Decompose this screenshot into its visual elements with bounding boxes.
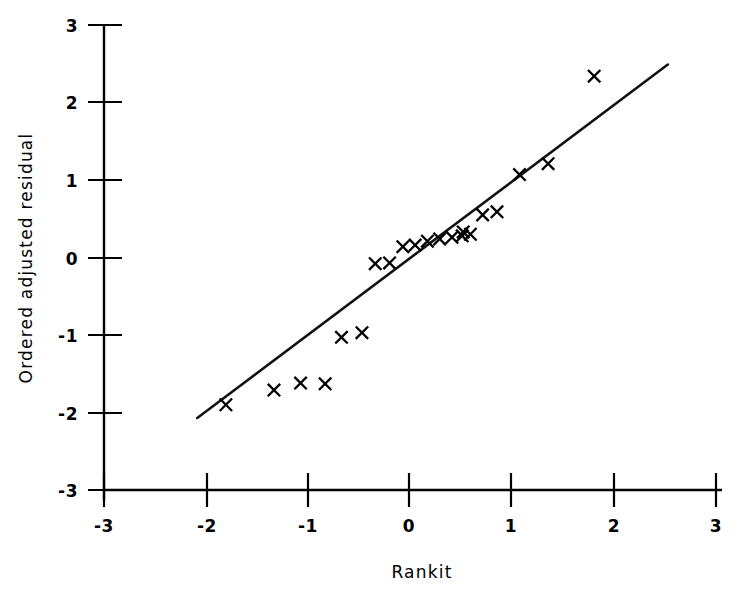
x-tick-label-neg3: -3 xyxy=(94,516,114,536)
y-axis-tick-labels: 3 2 1 0 -1 -2 -3 xyxy=(58,16,78,501)
x-tick-label-0: 0 xyxy=(403,516,415,536)
data-point-marker xyxy=(491,206,503,218)
y-axis-title: Ordered adjusted residual xyxy=(16,133,36,384)
x-axis-tick-labels: -3 -2 -1 0 1 2 3 xyxy=(94,516,722,536)
data-point-marker xyxy=(397,240,409,252)
y-tick-label-3: 3 xyxy=(66,16,78,36)
y-tick-label-2: 2 xyxy=(66,93,78,113)
reference-fit-line xyxy=(197,65,668,418)
y-tick-label-1: 1 xyxy=(66,171,78,191)
data-point-marker xyxy=(335,331,347,343)
normal-probability-plot: 3 2 1 0 -1 -2 -3 -3 -2 -1 0 1 2 3 xyxy=(0,0,736,591)
data-point-marker xyxy=(542,158,554,170)
data-point-marker xyxy=(268,384,280,396)
data-point-marker xyxy=(409,239,421,251)
x-tick-label-3: 3 xyxy=(710,516,722,536)
y-tick-label-neg3: -3 xyxy=(58,481,78,501)
y-tick-label-neg1: -1 xyxy=(58,326,78,346)
x-tick-label-neg1: -1 xyxy=(298,516,318,536)
x-tick-label-neg2: -2 xyxy=(197,516,217,536)
data-point-marker xyxy=(294,377,306,389)
data-point-marker xyxy=(476,209,488,221)
x-tick-label-1: 1 xyxy=(505,516,517,536)
y-tick-label-0: 0 xyxy=(66,249,78,269)
data-point-marker xyxy=(319,378,331,390)
data-point-marker xyxy=(220,399,232,411)
data-point-marker xyxy=(383,257,395,269)
data-point-marker xyxy=(513,168,525,180)
y-tick-label-neg2: -2 xyxy=(58,404,78,424)
plot-canvas: 3 2 1 0 -1 -2 -3 -3 -2 -1 0 1 2 3 xyxy=(0,0,736,591)
data-point-marker xyxy=(356,326,368,338)
x-axis-title: Rankit xyxy=(391,562,452,582)
data-point-marker xyxy=(588,70,600,82)
data-point-marker xyxy=(369,258,381,270)
x-tick-label-2: 2 xyxy=(608,516,620,536)
